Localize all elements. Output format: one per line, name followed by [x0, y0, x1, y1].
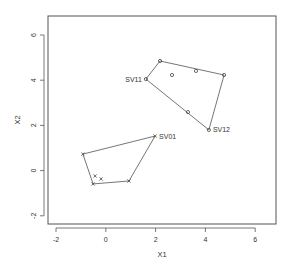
data-points: SV11SV12SV01: [81, 59, 230, 185]
y-tick-label: -2: [30, 213, 37, 219]
y-tick-label: 6: [30, 33, 37, 37]
y-tick-label: 0: [30, 169, 37, 173]
x-tick-label: 2: [154, 236, 158, 243]
x-axis-title: X1: [157, 250, 166, 259]
y-tick-label: 4: [30, 78, 37, 82]
plot-frame: [48, 16, 276, 224]
point-label: SV01: [159, 133, 176, 140]
x-marker: [99, 177, 102, 180]
x-tick-label: 6: [253, 236, 257, 243]
x-axis: -20246: [53, 228, 257, 243]
y-axis: -20246: [30, 33, 44, 219]
x-marker: [93, 174, 96, 177]
point-label: SV11: [125, 76, 142, 83]
convex-hulls: [83, 61, 224, 184]
x-tick-label: 4: [203, 236, 207, 243]
circle-marker: [170, 73, 173, 76]
y-axis-title: X2: [13, 115, 22, 124]
x-tick-label: 0: [104, 236, 108, 243]
hull-group-o: [146, 61, 224, 130]
hull-group-x: [83, 136, 155, 184]
scatter-plot: -20246 -20246 SV11SV12SV01 X1 X2: [0, 0, 291, 273]
y-tick-label: 2: [30, 123, 37, 127]
point-label: SV12: [213, 126, 230, 133]
x-tick-label: -2: [53, 236, 59, 243]
circle-marker: [194, 69, 197, 72]
